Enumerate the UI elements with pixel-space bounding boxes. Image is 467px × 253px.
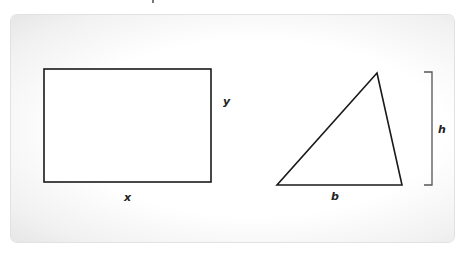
triangle-height-label: h <box>438 123 446 136</box>
rectangle-height-label: y <box>223 95 230 108</box>
rectangle-shape <box>44 69 211 182</box>
triangle-base-label: b <box>331 190 339 203</box>
shapes-canvas <box>0 0 467 253</box>
height-bracket <box>424 72 432 185</box>
triangle-shape <box>277 73 402 185</box>
rectangle-width-label: x <box>124 191 131 204</box>
